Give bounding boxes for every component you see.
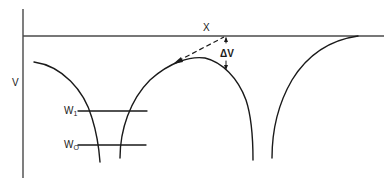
- energy-level-w1-label: W1: [64, 105, 77, 117]
- v-axis-label: V: [12, 77, 19, 88]
- right-potential-curve: [272, 36, 358, 158]
- x-axis-label: X: [203, 22, 210, 33]
- delta-v-label: ΔV: [220, 48, 234, 59]
- potential-diagram: V X ΔV W1 WO: [0, 0, 391, 186]
- dashed-arrowhead-icon: [173, 57, 183, 64]
- delta-v-up-arrow-icon: [224, 37, 228, 42]
- energy-level-w0-label: WO: [64, 139, 79, 151]
